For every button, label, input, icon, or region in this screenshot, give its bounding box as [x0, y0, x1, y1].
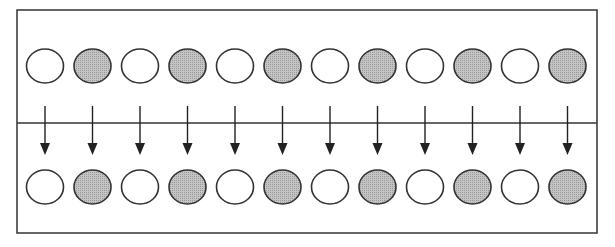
top-circle-8-filled — [359, 49, 396, 83]
circle-mapping-diagram — [0, 0, 615, 247]
bottom-circle-9-empty — [407, 170, 444, 204]
top-circle-row — [27, 49, 587, 83]
top-circle-12-filled — [549, 49, 586, 83]
bottom-circle-row — [27, 170, 587, 204]
bottom-circle-4-filled — [169, 170, 206, 204]
down-arrow-icon — [88, 106, 98, 155]
bottom-circle-10-filled — [454, 170, 491, 204]
bottom-circle-6-filled — [264, 170, 301, 204]
down-arrow-icon — [325, 106, 335, 155]
top-circle-7-empty — [312, 49, 349, 83]
bottom-circle-12-filled — [549, 170, 586, 204]
down-arrow-icon — [40, 106, 50, 155]
top-circle-9-empty — [407, 49, 444, 83]
down-arrow-icon — [420, 106, 430, 155]
down-arrow-icon — [135, 106, 145, 155]
top-circle-11-empty — [502, 49, 539, 83]
bottom-circle-2-filled — [74, 170, 111, 204]
down-arrow-icon — [183, 106, 193, 155]
down-arrow-icon — [515, 106, 525, 155]
down-arrow-icon — [468, 106, 478, 155]
top-circle-6-filled — [264, 49, 301, 83]
down-arrow-icon — [230, 106, 240, 155]
down-arrow-icon — [563, 106, 573, 155]
top-circle-1-empty — [27, 49, 64, 83]
top-circle-2-filled — [74, 49, 111, 83]
arrow-row — [40, 106, 573, 155]
bottom-circle-3-empty — [122, 170, 159, 204]
top-circle-4-filled — [169, 49, 206, 83]
top-circle-10-filled — [454, 49, 491, 83]
bottom-circle-5-empty — [217, 170, 254, 204]
bottom-circle-1-empty — [27, 170, 64, 204]
down-arrow-icon — [278, 106, 288, 155]
top-circle-5-empty — [217, 49, 254, 83]
top-circle-3-empty — [122, 49, 159, 83]
bottom-circle-8-filled — [359, 170, 396, 204]
bottom-circle-11-empty — [502, 170, 539, 204]
down-arrow-icon — [373, 106, 383, 155]
bottom-circle-7-empty — [312, 170, 349, 204]
